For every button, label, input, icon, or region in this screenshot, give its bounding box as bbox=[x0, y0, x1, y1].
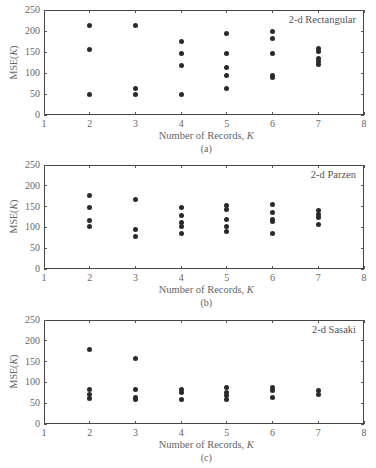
data-point bbox=[224, 73, 229, 78]
data-point bbox=[179, 51, 184, 56]
x-tick-top bbox=[89, 320, 90, 323]
data-point bbox=[87, 387, 92, 392]
plot-title-legend: 2-d Sasaki bbox=[312, 324, 356, 335]
plot-title-legend: 2-d Rectangular bbox=[289, 14, 356, 25]
x-tick bbox=[318, 421, 319, 424]
x-tick-top bbox=[364, 320, 365, 323]
y-tick-label: 200 bbox=[20, 181, 40, 191]
y-tick bbox=[44, 73, 47, 74]
data-point bbox=[179, 92, 184, 97]
data-point bbox=[133, 92, 138, 97]
data-point bbox=[270, 210, 275, 215]
x-tick bbox=[181, 112, 182, 115]
data-point bbox=[316, 222, 321, 227]
x-tick-top bbox=[226, 10, 227, 13]
data-point bbox=[316, 392, 321, 397]
y-tick bbox=[44, 382, 47, 383]
y-tick-right bbox=[361, 206, 364, 207]
data-point bbox=[270, 75, 275, 80]
x-tick-top bbox=[181, 165, 182, 168]
y-axis-label-close: ) bbox=[8, 45, 19, 48]
y-tick-label: 250 bbox=[20, 5, 40, 15]
x-tick-top bbox=[318, 320, 319, 323]
x-tick-top bbox=[44, 10, 45, 13]
x-tick bbox=[181, 266, 182, 269]
x-tick-label: 4 bbox=[174, 273, 188, 283]
x-axis-label-var: K bbox=[247, 130, 254, 141]
y-axis-label-var: K bbox=[8, 203, 19, 210]
x-tick bbox=[89, 266, 90, 269]
y-tick-label: 100 bbox=[20, 68, 40, 78]
data-point bbox=[179, 63, 184, 68]
x-tick-label: 3 bbox=[128, 428, 142, 438]
y-tick-right bbox=[361, 248, 364, 249]
y-tick bbox=[44, 52, 47, 53]
x-tick-label: 5 bbox=[220, 273, 234, 283]
x-tick bbox=[272, 421, 273, 424]
data-point bbox=[179, 397, 184, 402]
y-tick-label: 50 bbox=[20, 243, 40, 253]
x-tick-label: 5 bbox=[220, 119, 234, 129]
x-tick-label: 8 bbox=[357, 273, 371, 283]
x-tick-top bbox=[181, 10, 182, 13]
x-tick bbox=[318, 266, 319, 269]
x-tick-top bbox=[272, 10, 273, 13]
x-tick bbox=[318, 112, 319, 115]
x-tick bbox=[44, 112, 45, 115]
y-tick-right bbox=[361, 31, 364, 32]
x-tick-top bbox=[135, 165, 136, 168]
x-tick bbox=[44, 266, 45, 269]
x-tick-top bbox=[272, 320, 273, 323]
y-tick-right bbox=[361, 227, 364, 228]
y-tick-label: 200 bbox=[20, 336, 40, 346]
y-tick bbox=[44, 94, 47, 95]
x-tick-top bbox=[44, 320, 45, 323]
data-point bbox=[224, 65, 229, 70]
y-tick-right bbox=[361, 382, 364, 383]
x-tick-label: 7 bbox=[311, 119, 325, 129]
x-axis-label: Number of Records, K bbox=[106, 439, 306, 450]
data-point bbox=[133, 387, 138, 392]
x-tick bbox=[364, 112, 365, 115]
x-tick-label: 6 bbox=[266, 428, 280, 438]
x-tick-top bbox=[318, 165, 319, 168]
x-tick-label: 6 bbox=[266, 119, 280, 129]
x-tick-label: 2 bbox=[83, 119, 97, 129]
data-point bbox=[316, 49, 321, 54]
x-tick-top bbox=[135, 320, 136, 323]
y-tick-right bbox=[361, 94, 364, 95]
y-tick bbox=[44, 206, 47, 207]
x-tick bbox=[226, 266, 227, 269]
data-point bbox=[179, 39, 184, 44]
x-tick-label: 1 bbox=[37, 273, 51, 283]
y-axis-label-text: MSE( bbox=[8, 55, 19, 79]
y-tick-label: 50 bbox=[20, 398, 40, 408]
x-tick bbox=[181, 421, 182, 424]
data-point bbox=[133, 86, 138, 91]
x-tick-label: 4 bbox=[174, 428, 188, 438]
data-point bbox=[270, 395, 275, 400]
y-tick-label: 100 bbox=[20, 377, 40, 387]
x-tick-label: 5 bbox=[220, 428, 234, 438]
x-tick-label: 6 bbox=[266, 273, 280, 283]
data-point bbox=[270, 36, 275, 41]
x-tick-top bbox=[44, 165, 45, 168]
data-point bbox=[133, 227, 138, 232]
y-axis-label-close: ) bbox=[8, 200, 19, 203]
x-tick bbox=[272, 112, 273, 115]
x-tick-top bbox=[181, 320, 182, 323]
x-tick-label: 7 bbox=[311, 273, 325, 283]
y-axis-label-var: K bbox=[8, 358, 19, 365]
plot-title-legend: 2-d Parzen bbox=[311, 169, 356, 180]
data-point bbox=[316, 215, 321, 220]
x-axis-label-text: Number of Records, bbox=[159, 439, 247, 450]
x-axis-label-text: Number of Records, bbox=[159, 130, 247, 141]
x-tick-label: 4 bbox=[174, 119, 188, 129]
y-tick-label: 250 bbox=[20, 160, 40, 170]
y-tick-right bbox=[361, 403, 364, 404]
y-tick bbox=[44, 340, 47, 341]
y-tick-right bbox=[361, 185, 364, 186]
y-axis-label-text: MSE( bbox=[8, 365, 19, 389]
x-axis-label-text: Number of Records, bbox=[159, 284, 247, 295]
x-tick-top bbox=[89, 10, 90, 13]
